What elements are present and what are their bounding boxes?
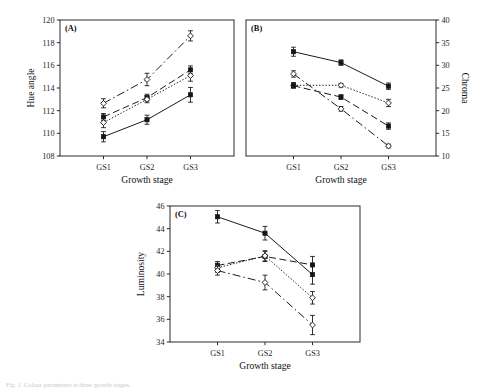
x-tick-label: GS1 [210, 349, 225, 358]
y-tick-label: 36 [156, 315, 164, 324]
chart-svg-b: 10152025303540GS1GS2GS3Growth stageChrom… [238, 12, 482, 198]
y-axis-title: Luminosity [135, 252, 146, 296]
y-tick-label: 118 [43, 39, 55, 48]
chart-svg-a: 108110112114116118120GS1GS2GS3Growth sta… [14, 12, 242, 198]
x-tick-label: GS3 [305, 349, 320, 358]
marker-filled-square [101, 135, 105, 139]
y-tick-label: 25 [442, 84, 450, 93]
marker-filled-square [339, 61, 343, 65]
marker-filled-square [386, 84, 390, 88]
x-tick-label: GS2 [334, 163, 349, 172]
y-tick-label: 34 [156, 338, 164, 347]
marker-open-diamond [188, 33, 194, 39]
marker-filled-square [386, 124, 390, 128]
marker-filled-square [215, 215, 219, 219]
y-tick-label: 120 [42, 16, 54, 25]
y-tick-label: 30 [442, 61, 450, 70]
chart-svg-c: 34363840424446GS1GS2GS3Growth stageLumin… [120, 196, 370, 386]
chart-panel-b: 10152025303540GS1GS2GS3Growth stageChrom… [238, 12, 482, 198]
marker-filled-square [188, 93, 192, 97]
y-tick-label: 112 [43, 107, 55, 116]
marker-filled-square [291, 84, 295, 88]
panel-label: (C) [175, 210, 187, 219]
x-tick-label: GS3 [183, 163, 198, 172]
y-tick-label: 116 [43, 61, 55, 70]
series-S4 [215, 266, 316, 335]
x-axis-title: Growth stage [121, 174, 172, 185]
x-tick-label: GS1 [286, 163, 301, 172]
y-tick-label: 44 [156, 225, 164, 234]
y-tick-label: 46 [156, 202, 164, 211]
series-S1 [215, 211, 315, 285]
y-tick-label: 20 [442, 107, 450, 116]
panel-label: (A) [65, 24, 77, 33]
y-tick-label: 108 [42, 152, 54, 161]
marker-open-diamond [386, 100, 392, 106]
marker-filled-square [263, 231, 267, 235]
panel-label: (B) [251, 24, 262, 33]
y-tick-label: 40 [442, 16, 450, 25]
marker-open-diamond [101, 100, 107, 106]
chart-panel-a: 108110112114116118120GS1GS2GS3Growth sta… [14, 12, 242, 198]
y-tick-label: 110 [43, 129, 55, 138]
y-tick-label: 10 [442, 152, 450, 161]
figure-caption: Fig. 1. Colour parameters at three growt… [6, 381, 480, 389]
x-tick-label: GS1 [96, 163, 111, 172]
marker-filled-square [339, 95, 343, 99]
x-axis-title: Growth stage [315, 174, 366, 185]
y-tick-label: 38 [156, 293, 164, 302]
y-axis-title: Chroma [460, 73, 471, 105]
chart-panel-c: 34363840424446GS1GS2GS3Growth stageLumin… [120, 196, 370, 386]
marker-filled-square [291, 50, 295, 54]
x-tick-label: GS3 [381, 163, 396, 172]
y-tick-label: 114 [43, 84, 55, 93]
plot-frame [60, 20, 234, 156]
y-tick-label: 15 [442, 129, 450, 138]
y-tick-label: 40 [156, 270, 164, 279]
series-line [294, 52, 389, 86]
series-line [104, 36, 191, 103]
y-tick-label: 35 [442, 39, 450, 48]
x-tick-label: GS2 [140, 163, 155, 172]
figure-root: 108110112114116118120GS1GS2GS3Growth sta… [0, 0, 485, 392]
x-tick-label: GS2 [258, 349, 273, 358]
y-axis-title: Hue angle [25, 68, 36, 107]
marker-filled-square [310, 263, 314, 267]
series-line [218, 217, 313, 275]
marker-filled-square [145, 118, 149, 122]
x-axis-title: Growth stage [239, 360, 290, 371]
y-tick-label: 42 [156, 247, 164, 256]
